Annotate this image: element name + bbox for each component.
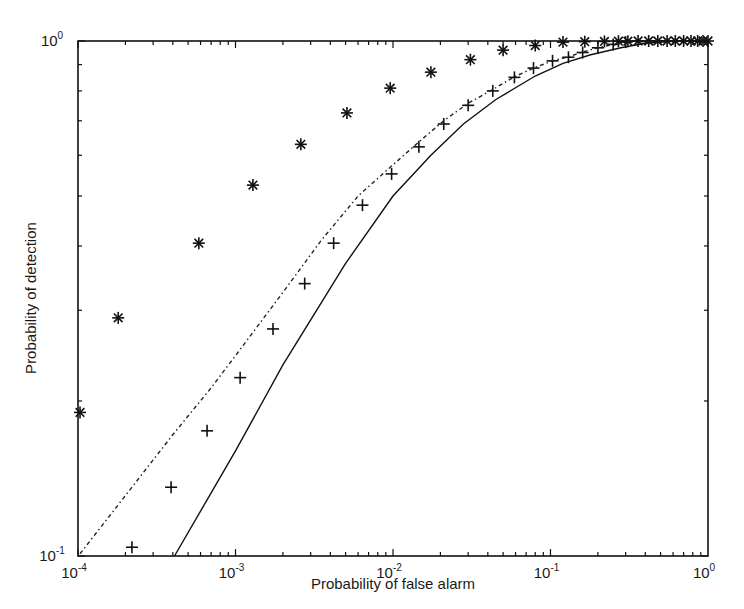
y-tick-label: 100 — [41, 30, 64, 49]
y-tick-labels: 10-1100 — [39, 30, 65, 564]
x-tick-label: 10-1 — [534, 562, 560, 581]
y-tick-label: 10-1 — [39, 545, 65, 564]
y-axis-label: Probability of detection — [22, 222, 39, 374]
plot-area — [74, 35, 714, 556]
series-star-markers — [74, 35, 714, 418]
series-dash-dot-curve — [80, 41, 708, 554]
axis-ticks — [78, 41, 708, 556]
plot-frame — [78, 41, 708, 556]
x-tick-label: 10-3 — [219, 562, 245, 581]
roc-chart: 10-410-310-210-1100 10-1100 Probability … — [0, 0, 744, 609]
x-tick-label: 10-4 — [61, 562, 87, 581]
x-axis-label: Probability of false alarm — [311, 575, 475, 592]
x-tick-label: 100 — [693, 562, 716, 581]
series-plus-markers — [126, 36, 632, 553]
series-solid-curve — [175, 41, 709, 556]
